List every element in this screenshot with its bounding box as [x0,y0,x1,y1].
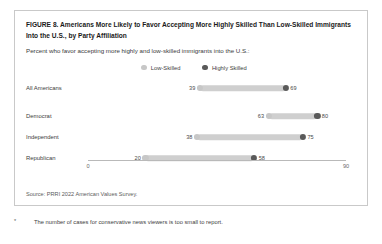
row-label-democrat: Democrat [26,113,52,119]
footnote-marker: * [14,218,34,224]
row-track-all-americans: 39 69 [88,83,346,94]
legend-item-highly-skilled[interactable]: Highly Skilled [202,65,246,71]
legend-label-low-skilled: Low-Skilled [151,65,181,71]
figure-page: FIGURE 8. Americans More Likely to Favor… [0,0,382,244]
row-label-republican: Republican [26,155,55,161]
figure-subtitle: Percent who favor accepting more highly … [26,46,356,55]
chart-row-republican: Republican 20 58 [26,153,358,164]
chart-row-all-americans: All Americans 39 69 [26,83,358,94]
row-value-high-democrat: 80 [317,113,328,119]
x-axis-tick-max: 90 [343,163,349,169]
row-label-independent: Independent [26,134,59,140]
legend-item-low-skilled[interactable]: Low-Skilled [141,65,180,71]
figure-card: FIGURE 8. Americans More Likely to Favor… [14,10,368,206]
row-track-democrat: 63 80 [88,111,346,122]
row-track-independent: 38 75 [88,132,346,143]
legend-swatch-low-skilled-icon [141,65,147,71]
figure-source: Source: PRRI 2022 American Values Survey… [26,191,137,197]
row-track-republican: 20 58 [88,153,346,164]
footnote-text: The number of cases for conservative new… [34,218,223,226]
chart-row-independent: Independent 38 75 [26,132,358,143]
row-value-high-all-americans: 69 [286,85,297,91]
chart-plot-area: All Americans 39 69 Democrat 63 80 [26,79,358,171]
legend-label-highly-skilled: Highly Skilled [212,65,247,71]
row-bar-democrat [269,113,318,119]
row-bar-all-americans [200,85,286,91]
row-bar-independent [197,134,303,140]
x-axis-tick-min: 0 [86,163,89,169]
row-value-high-independent: 75 [303,134,314,140]
chart-row-democrat: Democrat 63 80 [26,111,358,122]
legend-swatch-highly-skilled-icon [202,65,208,71]
figure-footnote: * The number of cases for conservative n… [14,218,368,226]
chart-x-axis: 0 90 [88,160,346,161]
figure-title: FIGURE 8. Americans More Likely to Favor… [26,20,356,41]
chart-legend: Low-Skilled Highly Skilled [26,65,356,71]
row-label-all-americans: All Americans [26,85,62,91]
